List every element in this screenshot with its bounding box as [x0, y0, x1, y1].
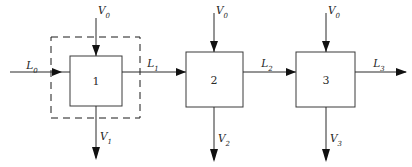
- vapor-inlet-arrow-icon-stage-2: [210, 41, 218, 52]
- liquid-stream-label-main-3: L: [372, 57, 380, 69]
- vapor-outlet-label-stage-1: V1: [100, 130, 112, 146]
- liquid-stream-arrow-icon-1: [176, 68, 186, 76]
- liquid-stream-label-sub-2: 2: [267, 65, 273, 73]
- stage-number-label-2: 2: [211, 74, 218, 87]
- feed-stream-label: L0: [25, 59, 38, 75]
- stage-number-label-1: 1: [93, 75, 100, 88]
- vapor-inlet-label-stage-3: V0: [328, 4, 341, 20]
- feed-stream-label-sub: 0: [33, 67, 38, 75]
- vapor-inlet-label-stage-2: V0: [216, 4, 229, 20]
- vapor-outlet-arrow-icon-stage-3: [322, 149, 330, 162]
- vapor-outlet-label-sub-3: 3: [338, 140, 343, 148]
- process-flow-diagram: 1 2 3 L0 V0 V0 V0 V1 V2 V3 L1: [0, 0, 412, 167]
- vapor-inlet-arrow-icon-stage-3: [322, 41, 330, 52]
- feed-stream-label-main: L: [25, 59, 33, 71]
- vapor-outlet-label-stage-3: V3: [330, 132, 343, 148]
- liquid-stream-label-sub-1: 1: [154, 65, 158, 73]
- vapor-outlet-label-stage-2: V2: [218, 132, 231, 148]
- vapor-outlet-label-sub-1: 1: [108, 138, 112, 146]
- liquid-stream-label-3: L3: [372, 57, 385, 73]
- vapor-inlet-label-sub-1: 0: [106, 12, 111, 20]
- liquid-stream-label-main-1: L: [146, 57, 154, 69]
- vapor-inlet-arrow-icon-stage-1: [92, 45, 100, 56]
- liquid-stream-label-2: L2: [260, 57, 273, 73]
- liquid-stream-label-1: L1: [146, 57, 158, 73]
- vapor-inlet-label-sub-2: 0: [224, 12, 229, 20]
- vapor-outlet-arrow-icon-stage-1: [92, 147, 100, 160]
- stage-number-label-3: 3: [323, 74, 330, 87]
- vapor-inlet-label-sub-3: 0: [336, 12, 341, 20]
- liquid-stream-arrow-icon-2: [286, 68, 296, 76]
- flow-diagram-canvas: 1 2 3 L0 V0 V0 V0 V1 V2 V3 L1: [0, 0, 412, 167]
- vapor-inlet-label-stage-1: V0: [98, 4, 111, 20]
- vapor-outlet-label-sub-2: 2: [225, 140, 231, 148]
- feed-stream-arrow-icon: [52, 68, 62, 76]
- liquid-stream-label-sub-3: 3: [380, 65, 385, 73]
- vapor-outlet-arrow-icon-stage-2: [210, 149, 218, 162]
- liquid-product-arrow-icon-3: [396, 68, 407, 76]
- liquid-stream-label-main-2: L: [260, 57, 268, 69]
